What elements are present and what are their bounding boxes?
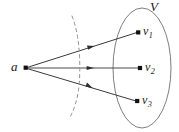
vertex-label-v1-subscript: 1 [149,31,153,40]
edge-a-to-v1 [27,33,137,68]
vertex-label-v3: v3 [142,94,151,106]
node-dot-v1 [136,30,140,34]
source-node-label: a [11,60,18,73]
node-dot-v3 [135,99,139,103]
vertex-label-v2-subscript: 2 [151,67,155,76]
node-dot-a [24,66,28,70]
vertex-label-v1-base: v [143,24,148,38]
edge-a-to-v3 [27,69,136,102]
vertex-label-v2: v2 [145,61,154,73]
vertex-label-v1: v1 [143,25,152,37]
vertex-label-v3-subscript: 3 [148,100,152,109]
arrowhead-a-to-v1 [87,46,94,50]
figure-root: a V v1 v2 v3 [0,0,179,132]
arrowhead-a-to-v2 [87,66,94,70]
node-dot-v2 [138,66,142,70]
set-region-label: V [150,0,158,13]
vertex-label-v3-base: v [142,93,147,107]
vertex-label-v2-base: v [145,60,150,74]
